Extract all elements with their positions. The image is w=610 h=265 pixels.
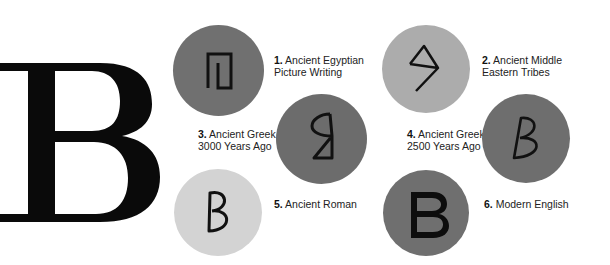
stage-4-title-line2: 2500 Years Ago bbox=[407, 140, 481, 152]
stage-3-title-line2: 3000 Years Ago bbox=[198, 140, 272, 152]
stage-4-label: 4. Ancient Greek 2500 Years Ago bbox=[407, 128, 485, 152]
stage-6-number: 6. bbox=[484, 198, 493, 210]
stage-5-circle bbox=[174, 169, 262, 256]
stage-3-number: 3. bbox=[198, 128, 207, 140]
stage-5-title: Ancient Roman bbox=[285, 198, 357, 210]
semitic-beth-glyph-icon bbox=[382, 25, 470, 113]
stage-2-label: 2. Ancient Middle Eastern Tribes bbox=[482, 54, 562, 78]
stage-1-title-line1: Ancient Egyptian bbox=[285, 54, 364, 66]
modern-b-glyph-icon bbox=[383, 170, 469, 256]
stage-3-title-line1: Ancient Greek bbox=[209, 128, 276, 140]
stage-6-title: Modern English bbox=[496, 198, 569, 210]
stage-3-circle bbox=[276, 94, 367, 184]
stage-4-title-line1: Ancient Greek bbox=[418, 128, 485, 140]
stage-3-label: 3. Ancient Greek 3000 Years Ago bbox=[198, 128, 276, 152]
stage-4-number: 4. bbox=[407, 128, 416, 140]
stage-4-circle bbox=[482, 94, 570, 183]
stage-5-label: 5. Ancient Roman bbox=[274, 198, 357, 210]
stage-2-title-line1: Ancient Middle bbox=[493, 54, 562, 66]
stage-1-circle bbox=[173, 25, 264, 116]
stage-1-label: 1. Ancient Egyptian Picture Writing bbox=[274, 54, 364, 78]
stage-2-circle bbox=[382, 25, 470, 113]
classical-greek-beta-glyph-icon bbox=[482, 94, 570, 183]
stage-1-title-line2: Picture Writing bbox=[274, 66, 342, 78]
stage-5-number: 5. bbox=[274, 198, 283, 210]
stage-1-number: 1. bbox=[274, 54, 283, 66]
roman-b-glyph-icon bbox=[174, 169, 262, 256]
stage-2-number: 2. bbox=[482, 54, 491, 66]
egyptian-house-glyph-icon bbox=[173, 25, 264, 116]
stage-2-title-line2: Eastern Tribes bbox=[482, 66, 550, 78]
stage-6-label: 6. Modern English bbox=[484, 198, 569, 210]
large-letter-b bbox=[0, 0, 170, 265]
early-greek-beta-glyph-icon bbox=[276, 94, 367, 184]
stage-6-circle bbox=[383, 170, 469, 256]
